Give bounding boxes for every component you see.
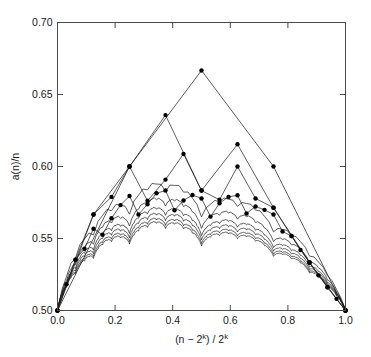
- y-tick-label: 0.50: [32, 304, 53, 316]
- y-axis-title: a(n)/n: [9, 153, 21, 181]
- x-tick-label: 1.0: [338, 314, 353, 326]
- data-point-marker: [91, 212, 95, 216]
- data-curve: [58, 218, 346, 310]
- data-point-marker: [64, 282, 68, 286]
- data-curve: [58, 154, 346, 311]
- data-point-marker: [298, 248, 302, 252]
- data-point-marker: [289, 234, 293, 238]
- chart-svg: 0.00.20.40.60.81.0 0.500.550.600.650.70 …: [0, 0, 371, 357]
- data-markers-layer: [55, 68, 347, 312]
- data-point-marker: [181, 152, 185, 156]
- data-point-marker: [235, 193, 239, 197]
- x-tick-label: 0.6: [223, 314, 238, 326]
- data-point-marker: [109, 216, 113, 220]
- data-point-marker: [235, 164, 239, 168]
- data-point-marker: [334, 297, 338, 301]
- data-point-marker: [235, 142, 239, 146]
- data-point-marker: [316, 273, 320, 277]
- data-point-marker: [145, 202, 149, 206]
- data-point-marker: [91, 227, 95, 231]
- x-axis-title: (n − 2k) / 2k: [175, 332, 228, 345]
- data-point-marker: [199, 196, 203, 200]
- data-point-marker: [199, 68, 203, 72]
- data-point-marker: [208, 214, 212, 218]
- data-point-marker: [199, 188, 203, 192]
- data-point-marker: [163, 188, 167, 192]
- data-point-marker: [262, 208, 266, 212]
- data-point-marker: [253, 204, 257, 208]
- data-point-marker: [271, 205, 275, 209]
- data-point-marker: [127, 164, 131, 168]
- data-point-marker: [136, 212, 140, 216]
- data-point-marker: [82, 247, 86, 251]
- plot-frame: [58, 23, 346, 311]
- x-tick-label: 0.4: [165, 314, 180, 326]
- data-point-marker: [118, 203, 122, 207]
- data-curve: [58, 198, 346, 311]
- data-point-marker: [127, 194, 131, 198]
- data-point-marker: [280, 229, 284, 233]
- y-tick-label: 0.55: [32, 232, 53, 244]
- data-point-marker: [253, 196, 257, 200]
- data-point-marker: [325, 285, 329, 289]
- plot-border: [58, 23, 346, 311]
- data-point-marker: [100, 233, 104, 237]
- y-axis-tick-labels: 0.500.550.600.650.70: [32, 16, 53, 316]
- data-point-marker: [172, 208, 176, 212]
- y-tick-label: 0.60: [32, 160, 53, 172]
- data-point-marker: [271, 164, 275, 168]
- data-curve: [58, 115, 346, 310]
- x-tick-label: 0.8: [281, 314, 296, 326]
- data-point-marker: [244, 211, 248, 215]
- data-point-marker: [226, 195, 230, 199]
- data-point-marker: [163, 113, 167, 117]
- data-point-marker: [154, 191, 158, 195]
- data-point-marker: [163, 177, 167, 181]
- axis-ticks: [58, 23, 346, 311]
- data-point-marker: [73, 257, 77, 261]
- x-tick-label: 0.2: [108, 314, 123, 326]
- y-tick-label: 0.65: [32, 88, 53, 100]
- data-point-marker: [217, 201, 221, 205]
- data-point-marker: [109, 195, 113, 199]
- data-curve: [58, 183, 346, 310]
- data-point-marker: [271, 212, 275, 216]
- x-axis-tick-labels: 0.00.20.40.60.81.0: [50, 314, 353, 326]
- chart-figure: 0.00.20.40.60.81.0 0.500.550.600.650.70 …: [0, 0, 371, 357]
- data-point-marker: [307, 260, 311, 264]
- data-point-marker: [190, 193, 194, 197]
- data-point-marker: [181, 198, 185, 202]
- y-tick-label: 0.70: [32, 16, 53, 28]
